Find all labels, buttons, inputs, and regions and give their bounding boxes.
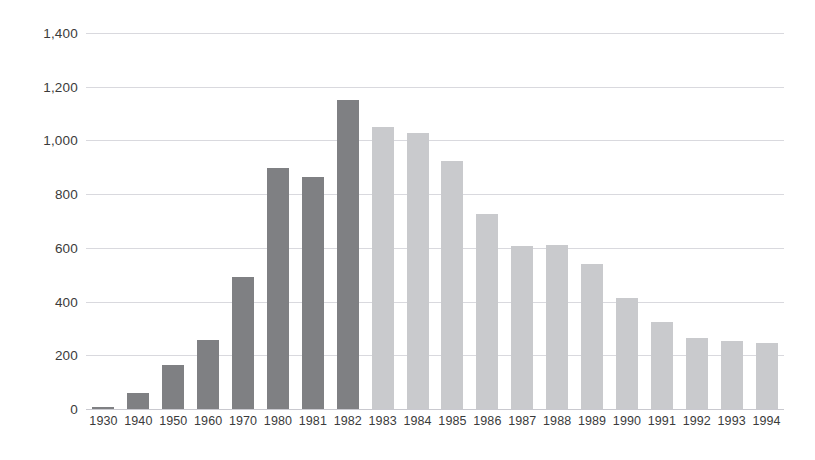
- bar-1960[interactable]: [197, 340, 219, 409]
- x-tick-label: 1984: [403, 414, 431, 428]
- bar-slot: [156, 33, 191, 409]
- x-tick-label: 1960: [194, 414, 222, 428]
- bar-slot: [330, 33, 365, 409]
- x-tick-label: 1930: [89, 414, 117, 428]
- bar-1991[interactable]: [651, 322, 673, 409]
- bar-1985[interactable]: [441, 161, 463, 409]
- y-tick-label: 1,000: [0, 133, 78, 148]
- bar-slot: [505, 33, 540, 409]
- bar-slot: [295, 33, 330, 409]
- plot-area: [86, 33, 784, 409]
- bar-slot: [86, 33, 121, 409]
- bar-slot: [540, 33, 575, 409]
- x-tick-label: 1950: [159, 414, 187, 428]
- x-tick-label: 1989: [578, 414, 606, 428]
- bar-1970[interactable]: [232, 277, 254, 409]
- y-tick-label: 200: [0, 348, 78, 363]
- gridline-0: [86, 409, 784, 410]
- y-tick-label: 1,200: [0, 79, 78, 94]
- bar-1990[interactable]: [616, 298, 638, 409]
- bar-1982[interactable]: [337, 100, 359, 409]
- y-tick-label: 400: [0, 294, 78, 309]
- bar-1981[interactable]: [302, 177, 324, 409]
- x-tick-label: 1983: [369, 414, 397, 428]
- bar-1986[interactable]: [476, 214, 498, 409]
- x-tick-label: 1992: [683, 414, 711, 428]
- bar-1994[interactable]: [756, 343, 778, 409]
- bar-1930[interactable]: [92, 407, 114, 409]
- y-tick-label: 800: [0, 187, 78, 202]
- bar-slot: [714, 33, 749, 409]
- bar-1992[interactable]: [686, 338, 708, 409]
- bar-slot: [365, 33, 400, 409]
- y-tick-label: 0: [0, 402, 78, 417]
- bar-1988[interactable]: [546, 245, 568, 409]
- bar-1950[interactable]: [162, 365, 184, 409]
- bar-1993[interactable]: [721, 341, 743, 409]
- bar-slot: [575, 33, 610, 409]
- x-tick-label: 1987: [508, 414, 536, 428]
- bar-1989[interactable]: [581, 264, 603, 409]
- bar-slot: [121, 33, 156, 409]
- bar-1987[interactable]: [511, 246, 533, 409]
- y-axis: 02004006008001,0001,2001,400: [0, 33, 78, 409]
- bar-1940[interactable]: [127, 393, 149, 409]
- x-tick-label: 1940: [124, 414, 152, 428]
- x-tick-label: 1980: [264, 414, 292, 428]
- x-tick-label: 1986: [473, 414, 501, 428]
- bar-1980[interactable]: [267, 168, 289, 409]
- bar-slot: [644, 33, 679, 409]
- y-tick-label: 1,400: [0, 26, 78, 41]
- bar-1983[interactable]: [372, 127, 394, 409]
- bar-slot: [261, 33, 296, 409]
- x-tick-label: 1994: [752, 414, 780, 428]
- bar-slot: [435, 33, 470, 409]
- bar-1984[interactable]: [407, 133, 429, 409]
- bar-slot: [226, 33, 261, 409]
- x-tick-label: 1993: [718, 414, 746, 428]
- bar-chart-figure: 02004006008001,0001,2001,400 19301940195…: [0, 0, 815, 460]
- x-tick-label: 1970: [229, 414, 257, 428]
- y-tick-label: 600: [0, 240, 78, 255]
- bar-slot: [749, 33, 784, 409]
- x-tick-label: 1988: [543, 414, 571, 428]
- x-axis: 1930194019501960197019801981198219831984…: [86, 414, 784, 438]
- x-tick-label: 1982: [334, 414, 362, 428]
- bar-slot: [610, 33, 645, 409]
- x-tick-label: 1985: [438, 414, 466, 428]
- x-tick-label: 1991: [648, 414, 676, 428]
- bar-slot: [400, 33, 435, 409]
- x-tick-label: 1981: [299, 414, 327, 428]
- bar-slot: [470, 33, 505, 409]
- bar-slot: [191, 33, 226, 409]
- bar-slot: [679, 33, 714, 409]
- x-tick-label: 1990: [613, 414, 641, 428]
- bars-layer: [86, 33, 784, 409]
